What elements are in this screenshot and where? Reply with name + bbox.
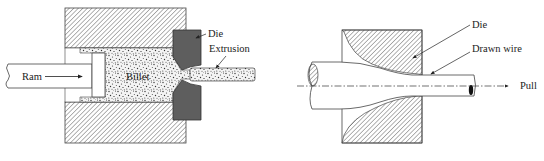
pull-label: Pull xyxy=(520,80,537,91)
extrusion-leader xyxy=(216,56,226,68)
container-upper xyxy=(65,8,186,48)
drawn-wire-label: Drawn wire xyxy=(472,43,522,54)
extrusion-rod xyxy=(190,68,255,81)
ram-rod xyxy=(6,64,92,88)
ram-label: Ram xyxy=(22,71,42,82)
diagram-canvas: Ram Billet Die Extrusion Die Drawn wire … xyxy=(0,0,544,161)
wire-end xyxy=(469,85,473,95)
extrusion-diagram: Ram Billet Die Extrusion xyxy=(6,8,255,143)
die-label: Die xyxy=(208,28,224,39)
ram-head xyxy=(92,53,105,97)
wire-cut-face xyxy=(308,64,318,86)
drawing-die-label: Die xyxy=(472,19,488,30)
extrusion-label: Extrusion xyxy=(209,43,251,54)
billet-label: Billet xyxy=(126,71,149,82)
container-lower xyxy=(65,102,186,143)
drawn-wire-leader xyxy=(431,52,470,74)
wire-drawing-diagram: Die Drawn wire Pull xyxy=(297,19,537,143)
